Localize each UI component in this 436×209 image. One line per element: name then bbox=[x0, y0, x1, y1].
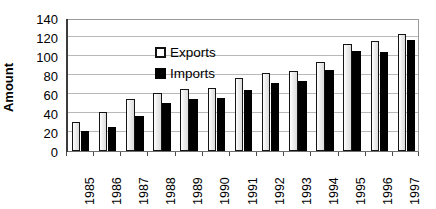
bar-exports-1995 bbox=[343, 44, 352, 151]
y-axis-tick-label: 0 bbox=[51, 146, 58, 159]
bar-group bbox=[153, 20, 171, 151]
bar-exports-1988 bbox=[153, 93, 162, 151]
x-axis-tick-label-1995: 1995 bbox=[353, 155, 369, 205]
legend-label-exports: Exports bbox=[170, 46, 216, 60]
x-axis-tick-label-1994: 1994 bbox=[326, 155, 342, 205]
bar-imports-1990 bbox=[217, 98, 226, 151]
y-axis-tick-label: 40 bbox=[44, 108, 58, 121]
x-axis-tick-label-1989: 1989 bbox=[190, 155, 206, 205]
bar-group bbox=[126, 20, 144, 151]
y-axis-tick-label: 140 bbox=[36, 13, 58, 26]
y-axis-title: Amount bbox=[0, 42, 18, 132]
x-axis-tick-label-1988: 1988 bbox=[163, 155, 179, 205]
legend-swatch-exports-icon bbox=[155, 47, 166, 58]
legend-label-imports: Imports bbox=[170, 67, 215, 81]
bar-imports-1995 bbox=[352, 51, 361, 151]
legend: Exports Imports bbox=[155, 44, 216, 82]
bar-group bbox=[235, 20, 253, 151]
legend-item-imports: Imports bbox=[155, 65, 216, 82]
bar-imports-1986 bbox=[108, 127, 117, 151]
x-axis-tick-label-1996: 1996 bbox=[380, 155, 396, 205]
x-axis-tick-labels: 1985198619871988198919901991199219931994… bbox=[66, 157, 419, 207]
bar-exports-1997 bbox=[398, 34, 407, 151]
y-axis-tick-label: 60 bbox=[44, 89, 58, 102]
bar-imports-1993 bbox=[298, 81, 307, 151]
x-axis-tick-label-1991: 1991 bbox=[245, 155, 261, 205]
bar-imports-1991 bbox=[244, 90, 253, 151]
bar-exports-1990 bbox=[208, 88, 217, 151]
bar-imports-1992 bbox=[271, 83, 280, 151]
bar-group bbox=[371, 20, 389, 151]
bar-group bbox=[208, 20, 226, 151]
x-axis-tick-label-1993: 1993 bbox=[299, 155, 315, 205]
legend-swatch-imports-icon bbox=[155, 68, 166, 79]
x-axis-tick-label-1987: 1987 bbox=[136, 155, 152, 205]
y-axis-tick-labels: 020406080100120140 bbox=[20, 19, 62, 152]
x-axis-tick bbox=[66, 152, 67, 156]
y-axis-title-label: Amount bbox=[2, 62, 17, 111]
bar-imports-1996 bbox=[380, 52, 389, 151]
bar-imports-1989 bbox=[189, 99, 198, 151]
bar-group bbox=[343, 20, 361, 151]
bar-chart-figure: Amount 020406080100120140 Exports Import… bbox=[0, 0, 436, 209]
bar-exports-1991 bbox=[235, 78, 244, 151]
bar-exports-1994 bbox=[316, 62, 325, 151]
bar-imports-1994 bbox=[325, 70, 334, 151]
x-axis-tick-label-1986: 1986 bbox=[109, 155, 125, 205]
bar-imports-1997 bbox=[407, 40, 416, 151]
bar-group bbox=[398, 20, 416, 151]
bar-exports-1996 bbox=[371, 41, 380, 151]
bar-exports-1989 bbox=[180, 89, 189, 151]
x-axis-tick-label-1990: 1990 bbox=[217, 155, 233, 205]
bar-group bbox=[262, 20, 280, 151]
y-axis-tick-label: 20 bbox=[44, 127, 58, 140]
y-axis-tick-label: 80 bbox=[44, 70, 58, 83]
bar-exports-1992 bbox=[262, 73, 271, 151]
bar-imports-1987 bbox=[135, 116, 144, 151]
bar-group bbox=[72, 20, 90, 151]
x-axis-tick-label-1997: 1997 bbox=[407, 155, 423, 205]
bar-exports-1987 bbox=[126, 99, 135, 151]
bar-exports-1986 bbox=[99, 112, 108, 151]
bar-exports-1985 bbox=[72, 122, 81, 151]
bar-exports-1993 bbox=[289, 71, 298, 151]
x-axis-tick-label-1985: 1985 bbox=[82, 155, 98, 205]
legend-item-exports: Exports bbox=[155, 44, 216, 61]
plot-area: Exports Imports bbox=[66, 19, 419, 152]
bars-layer bbox=[67, 20, 418, 151]
bar-imports-1985 bbox=[81, 131, 90, 151]
bar-group bbox=[289, 20, 307, 151]
bar-group bbox=[316, 20, 334, 151]
bar-imports-1988 bbox=[162, 103, 171, 151]
x-axis-tick-label-1992: 1992 bbox=[272, 155, 288, 205]
y-axis-tick-label: 100 bbox=[36, 51, 58, 64]
bar-group bbox=[99, 20, 117, 151]
bar-group bbox=[180, 20, 198, 151]
y-axis-tick-label: 120 bbox=[36, 32, 58, 45]
